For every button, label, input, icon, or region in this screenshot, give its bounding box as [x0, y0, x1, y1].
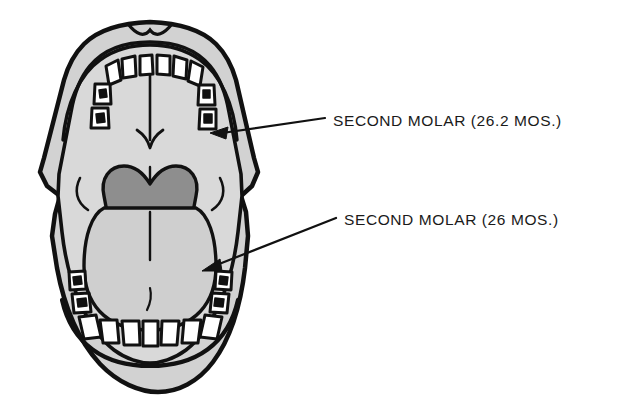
- cusp-lower-second-molar-right: [219, 276, 228, 285]
- tooth-upper-lateral-incisor-right: [173, 56, 187, 79]
- mouth-diagram: [0, 0, 623, 415]
- tooth-lower-canine-right: [200, 315, 222, 339]
- tooth-lower-central-incisor-left: [122, 321, 140, 345]
- tooth-upper-central-incisor-left: [140, 55, 153, 75]
- cusp-upper-first-molar-right: [203, 90, 210, 98]
- callout-label-upper-second-molar: SECOND MOLAR (26.2 MOS.): [333, 113, 562, 129]
- tooth-lower-central-incisor-right: [161, 321, 179, 345]
- tooth-upper-lateral-incisor-left: [122, 56, 136, 78]
- cusp-lower-first-molar-right: [214, 298, 224, 307]
- tooth-upper-canine-right: [188, 61, 203, 86]
- callout-label-lower-second-molar: SECOND MOLAR (26 MOS.): [344, 212, 559, 228]
- tooth-upper-canine-left: [106, 60, 121, 85]
- tooth-upper-central-incisor-right: [157, 55, 170, 75]
- cusp-upper-first-molar-left: [99, 89, 107, 98]
- cusp-lower-first-molar-left: [77, 298, 87, 307]
- tooth-lower-lateral-incisor-left: [100, 320, 119, 343]
- tooth-lower-central-incisor-mid: [143, 321, 158, 346]
- figure-root: SECOND MOLAR (26.2 MOS.) SECOND MOLAR (2…: [0, 0, 623, 415]
- tooth-lower-canine-left: [79, 315, 101, 339]
- cusp-upper-second-molar-left: [96, 113, 105, 123]
- cusp-upper-second-molar-right: [204, 114, 212, 123]
- cusp-lower-second-molar-left: [73, 276, 82, 285]
- tooth-lower-lateral-incisor-right: [182, 320, 201, 343]
